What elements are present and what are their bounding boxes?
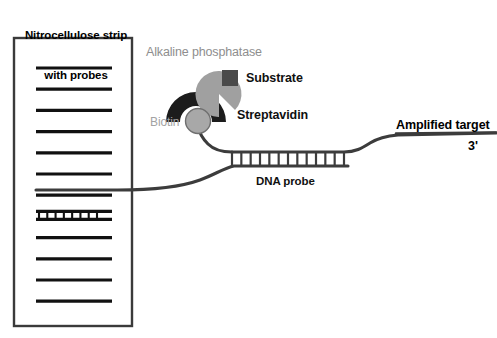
- figure-canvas: Nitrocellulose strip with probes Alkalin…: [0, 0, 497, 338]
- three-prime-label: 3': [468, 139, 478, 154]
- streptavidin-label: Streptavidin: [237, 108, 308, 123]
- strip-title-line1: Nitrocellulose strip: [10, 29, 142, 42]
- hybridization-rung-group: [232, 152, 344, 166]
- amplified-target-label: Amplified target: [396, 118, 490, 133]
- strip-title-line2: with probes: [10, 69, 142, 82]
- substrate-label: Substrate: [246, 71, 303, 86]
- alkaline-phosphatase-label: Alkaline phosphatase: [146, 45, 262, 60]
- amplified-target-strand-path: [232, 133, 496, 152]
- substrate-shape: [222, 70, 238, 86]
- amplified-target-underline: [396, 133, 496, 134]
- dna-probe-label: DNA probe: [256, 175, 315, 188]
- biotin-label: Biotin: [150, 116, 179, 130]
- biotin-shape: [186, 109, 211, 134]
- strip-title: Nitrocellulose strip with probes: [10, 2, 142, 109]
